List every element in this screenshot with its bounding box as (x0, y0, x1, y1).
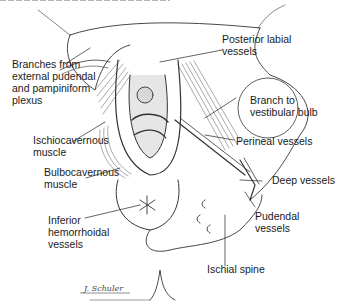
label-perineal-vessels: Perineal vessels (236, 135, 312, 147)
label-ischiocavernous-muscle: Ischiocavernous muscle (33, 134, 109, 158)
artist-signature: J. Schuler (84, 283, 123, 295)
label-branch-vestibular-bulb: Branch to vestibular bulb (250, 94, 318, 118)
label-posterior-labial-vessels: Posterior labial vessels (222, 33, 291, 57)
label-ischial-spine: Ischial spine (207, 263, 265, 275)
label-branches-external-pudendal: Branches from external pudendal and pamp… (12, 58, 95, 106)
label-bulbocavernous-muscle: Bulbocavernous muscle (44, 166, 119, 190)
label-inferior-hemorrhoidal-vessels: Inferior hemorrhoidal vessels (48, 214, 109, 250)
label-deep-vessels: Deep vessels (272, 174, 335, 186)
label-pudendal-vessels: Pudendal vessels (255, 210, 299, 234)
